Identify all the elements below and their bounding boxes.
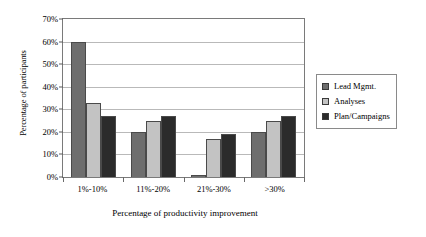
y-axis-title: Percentage of participants (18, 18, 28, 168)
legend-label: Lead Mgmt. (334, 82, 376, 91)
legend-swatch-icon (322, 113, 329, 120)
y-tick-label: 50% (42, 59, 58, 69)
x-tick-label: >30% (244, 184, 305, 194)
y-tick-label: 20% (42, 127, 58, 137)
x-tick-marks-layer (63, 19, 304, 177)
bar-chart: Percentage of participants 0%10%20%30%40… (0, 0, 426, 237)
y-tick-label: 30% (42, 104, 58, 114)
x-axis-title: Percentage of productivity improvement (40, 208, 330, 218)
x-tick-label: 11%-20% (123, 184, 184, 194)
y-tick-label: 40% (42, 82, 58, 92)
legend-item[interactable]: Analyses (322, 94, 390, 109)
legend-swatch-icon (322, 98, 329, 105)
x-tick-mark (304, 177, 305, 182)
legend-swatch-icon (322, 83, 329, 90)
x-tick-mark (184, 177, 185, 182)
x-axis-tick-labels: 1%-10%11%-20%21%-30%>30% (62, 184, 305, 194)
y-tick-label: 60% (42, 37, 58, 47)
x-tick-mark (123, 177, 124, 182)
legend-item[interactable]: Plan/Campaigns (322, 109, 390, 124)
y-tick-label: 70% (42, 14, 58, 24)
y-tick-label: 0% (47, 172, 58, 182)
x-tick-label: 1%-10% (62, 184, 123, 194)
x-tick-label: 21%-30% (184, 184, 245, 194)
legend-label: Plan/Campaigns (334, 112, 390, 121)
legend-label: Analyses (334, 97, 365, 106)
legend: Lead Mgmt.AnalysesPlan/Campaigns (316, 74, 397, 129)
y-tick-label: 10% (42, 149, 58, 159)
legend-item[interactable]: Lead Mgmt. (322, 79, 390, 94)
x-tick-mark (244, 177, 245, 182)
plot-area: 0%10%20%30%40%50%60%70% (62, 18, 305, 178)
x-tick-mark (63, 177, 64, 182)
